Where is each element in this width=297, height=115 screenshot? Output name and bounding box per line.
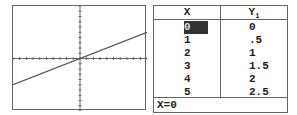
table-cell-y1: .5 — [249, 34, 262, 47]
header-x: X — [154, 6, 220, 19]
graph-plot — [13, 6, 147, 111]
table-cell-y1: 1 — [249, 47, 256, 60]
column-divider — [220, 6, 221, 98]
table-cell-x[interactable]: 0 — [184, 21, 208, 34]
table-cell-x[interactable]: 2 — [184, 47, 191, 60]
table-screen: X Y1 001.52131.54252.5 X=0 — [153, 5, 288, 113]
table-cell-y1: 0 — [249, 21, 256, 34]
table-cell-y1: 1.5 — [249, 60, 269, 73]
footer-value: X=0 — [157, 98, 177, 112]
table-cell-x[interactable]: 4 — [184, 73, 191, 86]
table-cell-x[interactable]: 3 — [184, 60, 191, 73]
table-cell-y1: 2 — [249, 73, 256, 86]
table-cell-x[interactable]: 1 — [184, 34, 191, 47]
graph-screen — [12, 5, 146, 110]
table-footer: X=0 — [154, 97, 287, 112]
